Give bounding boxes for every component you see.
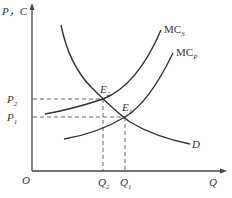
q1-label: Q1 bbox=[120, 176, 131, 191]
mc-social-label: MCS bbox=[164, 23, 185, 38]
labels: P，C O Q P2 P1 Q2 Q1 E2 E1 D MCS MCP bbox=[1, 5, 217, 191]
y-axis-label: P，C bbox=[1, 5, 28, 17]
x-axis-label: Q bbox=[209, 176, 217, 188]
externality-diagram: P，C O Q P2 P1 Q2 Q1 E2 E1 D MCS MCP bbox=[0, 0, 232, 198]
x-axis-arrow-icon bbox=[220, 169, 227, 174]
q2-label: Q2 bbox=[98, 176, 110, 191]
y-axis-arrow-icon bbox=[30, 3, 35, 10]
origin-label: O bbox=[22, 174, 30, 186]
mc-private-label: MCP bbox=[176, 46, 198, 61]
demand-label: D bbox=[191, 138, 200, 150]
p1-label: P1 bbox=[6, 111, 17, 126]
mc-private-curve bbox=[64, 53, 173, 139]
guide-lines bbox=[33, 99, 125, 171]
p2-label: P2 bbox=[6, 93, 18, 108]
e1-label: E1 bbox=[121, 101, 132, 116]
